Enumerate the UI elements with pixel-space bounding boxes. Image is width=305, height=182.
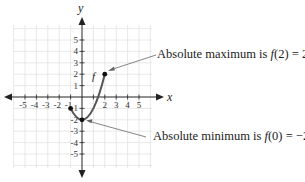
left-endpoint: [68, 106, 73, 111]
function-label: f: [92, 70, 97, 82]
svg-text:-4: -4: [31, 100, 39, 110]
svg-text:-2: -2: [53, 100, 61, 110]
svg-text:5: 5: [74, 35, 79, 45]
svg-text:4: 4: [74, 46, 79, 56]
x-axis-left-arrow: [4, 94, 12, 101]
svg-text:3: 3: [114, 100, 119, 110]
svg-text:5: 5: [137, 100, 142, 110]
graph: -5 -4 -3 -2 -1 2 3 4 5 5 4 3 2 1 -1 -2 -…: [0, 0, 305, 182]
svg-text:4: 4: [125, 100, 130, 110]
svg-text:2: 2: [74, 69, 79, 79]
axes: [9, 22, 159, 173]
svg-text:-5: -5: [71, 149, 79, 159]
y-axis-down-arrow: [79, 170, 86, 178]
maximum-point: [102, 72, 107, 77]
y-axis-label: y: [77, 1, 84, 15]
svg-text:-3: -3: [42, 100, 50, 110]
svg-text:3: 3: [74, 58, 79, 68]
svg-text:-3: -3: [71, 126, 79, 136]
svg-text:1: 1: [74, 81, 79, 91]
y-axis-up-arrow: [79, 17, 86, 25]
absolute-minimum-annotation: Absolute minimum is f(0) = −2: [153, 129, 305, 144]
x-axis-label: x: [166, 90, 173, 104]
minimum-point: [80, 117, 85, 122]
svg-text:2: 2: [103, 100, 108, 110]
svg-text:-4: -4: [71, 138, 79, 148]
x-axis-right-arrow: [156, 94, 164, 101]
svg-text:-5: -5: [19, 100, 27, 110]
absolute-maximum-annotation: Absolute maximum is f(2) = 2: [157, 47, 305, 62]
